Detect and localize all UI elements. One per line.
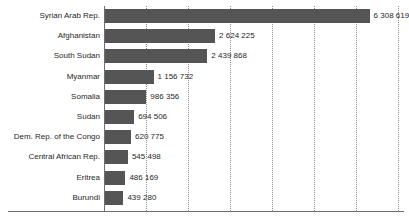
- category-label: Burundi: [0, 193, 100, 203]
- value-label: 486 169: [129, 173, 158, 183]
- value-label: 439 280: [127, 193, 156, 203]
- category-label: Syrian Arab Rep.: [0, 11, 100, 21]
- bar-row: Eritrea486 169: [0, 168, 407, 188]
- bar-row: Myanmar1 156 732: [0, 67, 407, 87]
- value-label: 545 498: [132, 152, 161, 162]
- bar-row: South Sudan2 439 868: [0, 46, 407, 66]
- bar: [105, 29, 215, 43]
- bar: [105, 49, 207, 63]
- bar-row: Sudan694 506: [0, 107, 407, 127]
- value-label: 694 506: [138, 112, 167, 122]
- bar-row: Afghanistan2 624 225: [0, 26, 407, 46]
- value-label: 2 439 868: [211, 51, 247, 61]
- value-label: 6 308 619: [374, 11, 409, 21]
- category-label: Central African Rep.: [0, 152, 100, 162]
- bar: [105, 110, 134, 124]
- bar-rows: Syrian Arab Rep.6 308 619Afghanistan2 62…: [0, 0, 407, 211]
- bar: [105, 70, 154, 84]
- category-label: Somalia: [0, 92, 100, 102]
- bar-row: Somalia986 356: [0, 87, 407, 107]
- bar: [105, 90, 146, 104]
- category-label: Eritrea: [0, 173, 100, 183]
- x-axis-line: [8, 211, 404, 212]
- value-label: 2 624 225: [219, 31, 255, 41]
- category-label: Sudan: [0, 112, 100, 122]
- category-label: South Sudan: [0, 51, 100, 61]
- category-label: Myanmar: [0, 72, 100, 82]
- value-label: 986 356: [150, 92, 179, 102]
- bar: [105, 9, 370, 23]
- bar: [105, 171, 125, 185]
- bar-row: Dem. Rep. of the Congo620 775: [0, 127, 407, 147]
- value-label: 620 775: [135, 132, 164, 142]
- bar: [105, 191, 123, 205]
- bar: [105, 130, 131, 144]
- category-label: Afghanistan: [0, 31, 100, 41]
- bar: [105, 150, 128, 164]
- category-label: Dem. Rep. of the Congo: [0, 132, 100, 142]
- bar-row: Burundi439 280: [0, 188, 407, 208]
- bar-row: Central African Rep.545 498: [0, 147, 407, 167]
- bar-row: Syrian Arab Rep.6 308 619: [0, 6, 407, 26]
- value-label: 1 156 732: [158, 72, 194, 82]
